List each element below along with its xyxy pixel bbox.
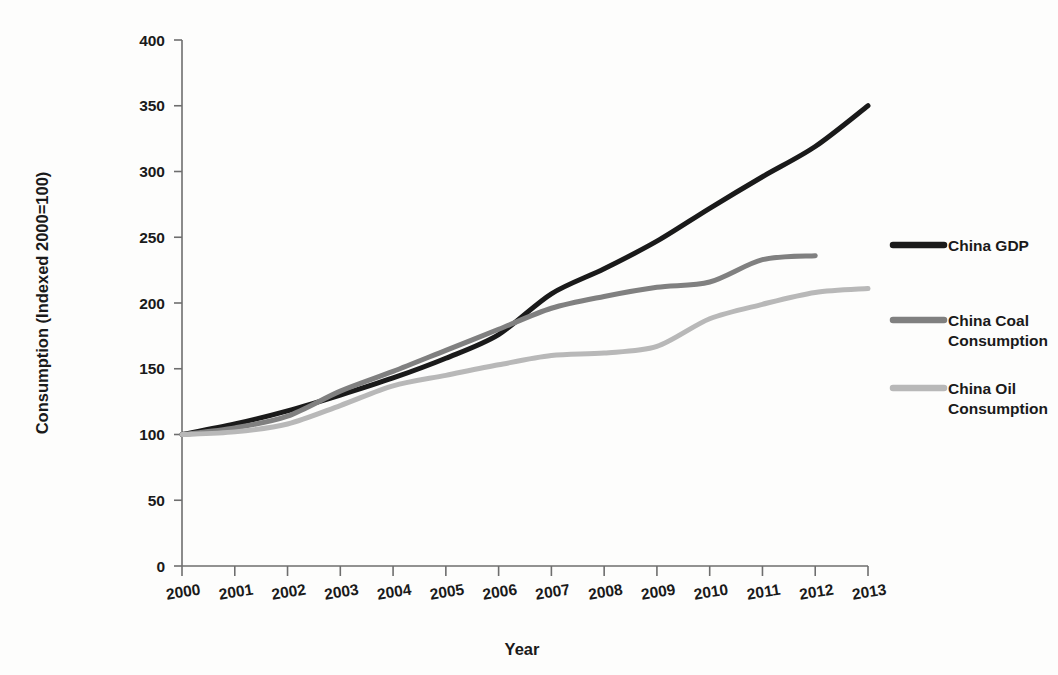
x-axis-title: Year [505,640,540,658]
legend-label-2-line2: Consumption [948,400,1048,417]
series-layer [182,106,868,435]
series-line-1 [182,256,815,435]
y-tick-label: 150 [139,360,165,377]
legend-label-0: China GDP [948,237,1029,254]
x-tick-label: 2000 [165,580,202,602]
chart-container: Consumption (Indexed 2000=100) Year 0501… [0,0,1058,675]
x-tick-label: 2007 [534,580,571,602]
x-tick-label: 2011 [746,580,782,602]
y-tick-label: 200 [139,295,165,312]
y-tick-label: 350 [139,97,165,114]
y-tick-label: 250 [139,229,165,246]
x-tick-label: 2009 [640,580,677,602]
legend-label-2: China Oil [948,380,1016,397]
x-tick-label: 2008 [587,580,624,602]
x-axis-ticks: 2000200120022003200420052006200720082009… [165,566,888,603]
line-chart: Consumption (Indexed 2000=100) Year 0501… [0,0,1058,675]
y-axis-ticks: 050100150200250300350400 [139,32,182,575]
x-tick-label: 2005 [429,580,466,602]
y-tick-label: 50 [148,492,165,509]
series-line-0 [182,106,868,435]
x-tick-label: 2010 [692,580,729,602]
chart-legend: China GDPChina CoalConsumptionChina OilC… [893,237,1048,418]
y-tick-label: 400 [139,32,165,49]
x-tick-label: 2001 [218,580,255,602]
x-tick-label: 2002 [270,580,307,602]
y-tick-label: 100 [139,426,165,443]
y-tick-label: 0 [156,558,165,575]
y-tick-label: 300 [139,163,165,180]
y-axis-title: Consumption (Indexed 2000=100) [33,172,51,435]
legend-label-1: China Coal [948,312,1029,329]
x-tick-label: 2012 [798,580,835,602]
legend-label-1-line2: Consumption [948,332,1048,349]
x-tick-label: 2013 [851,580,888,602]
x-tick-label: 2004 [376,580,413,602]
x-tick-label: 2003 [323,580,360,602]
x-tick-label: 2006 [481,580,518,602]
